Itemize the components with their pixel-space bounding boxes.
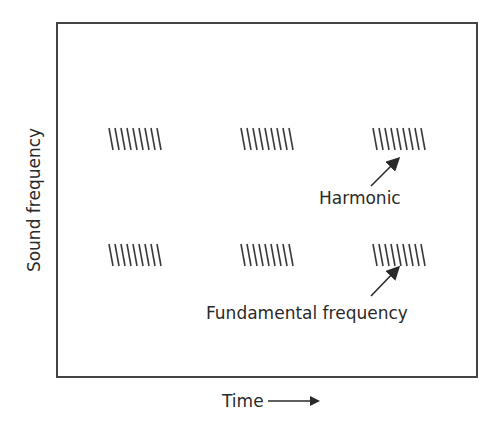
hatch-group-harmonic-1	[109, 128, 161, 150]
hatch-stroke	[247, 128, 251, 150]
hatch-stroke	[373, 128, 377, 150]
hatch-group-harmonic-3	[373, 128, 425, 150]
annotation-fundamental: Fundamental frequency	[206, 268, 408, 323]
hatch-group-fundamental-3	[373, 244, 425, 266]
hatch-stroke	[241, 244, 245, 266]
y-axis-label: Sound frequency	[24, 128, 44, 272]
hatch-stroke	[109, 128, 113, 150]
hatch-stroke	[133, 128, 137, 150]
hatch-stroke	[109, 244, 113, 266]
hatch-stroke	[271, 244, 275, 266]
x-axis-label-group: Time	[221, 391, 318, 411]
hatch-stroke	[415, 244, 419, 266]
hatch-stroke	[379, 244, 383, 266]
hatch-stroke	[253, 244, 257, 266]
hatch-stroke	[121, 244, 125, 266]
hatch-stroke	[385, 128, 389, 150]
hatch-stroke	[265, 244, 269, 266]
arrow-icon	[371, 159, 398, 186]
hatch-stroke	[409, 128, 413, 150]
hatch-stroke	[145, 128, 149, 150]
hatch-stroke	[241, 128, 245, 150]
hatch-stroke	[289, 244, 293, 266]
hatch-stroke	[421, 244, 425, 266]
hatch-stroke	[391, 244, 395, 266]
hatch-stroke	[265, 128, 269, 150]
hatch-stroke	[253, 128, 257, 150]
hatch-stroke	[127, 128, 131, 150]
hatch-stroke	[403, 128, 407, 150]
hatch-stroke	[289, 128, 293, 150]
hatch-stroke	[379, 128, 383, 150]
hatch-stroke	[259, 128, 263, 150]
hatch-stroke	[385, 244, 389, 266]
hatch-stroke	[115, 244, 119, 266]
hatch-stroke	[121, 128, 125, 150]
x-axis-label: Time	[221, 391, 264, 411]
hatch-stroke	[139, 244, 143, 266]
hatch-stroke	[403, 244, 407, 266]
hatch-stroke	[247, 244, 251, 266]
arrow-icon	[371, 268, 398, 296]
hatch-stroke	[151, 128, 155, 150]
hatch-stroke	[139, 128, 143, 150]
hatch-stroke	[283, 128, 287, 150]
annotation-label-fundamental: Fundamental frequency	[206, 303, 408, 323]
hatch-stroke	[421, 128, 425, 150]
hatch-stroke	[397, 244, 401, 266]
hatch-stroke	[157, 244, 161, 266]
hatch-stroke	[157, 128, 161, 150]
hatch-group-fundamental-2	[241, 244, 293, 266]
hatch-group-fundamental-1	[109, 244, 161, 266]
annotations: HarmonicFundamental frequency	[206, 159, 408, 323]
harmonics-diagram: Sound frequency Time HarmonicFundamental…	[0, 0, 503, 429]
hatch-stroke	[415, 128, 419, 150]
plot-frame	[57, 23, 477, 377]
hatch-stroke	[277, 244, 281, 266]
annotation-harmonic: Harmonic	[319, 159, 401, 208]
hatch-stroke	[133, 244, 137, 266]
hatch-stroke	[271, 128, 275, 150]
hatch-stroke	[373, 244, 377, 266]
hatch-stroke	[409, 244, 413, 266]
hatch-stroke	[277, 128, 281, 150]
hatch-stroke	[391, 128, 395, 150]
hatch-stroke	[127, 244, 131, 266]
hatch-stroke	[283, 244, 287, 266]
hatch-group-harmonic-2	[241, 128, 293, 150]
hatch-stroke	[115, 128, 119, 150]
hatch-stroke	[259, 244, 263, 266]
hatch-stroke	[145, 244, 149, 266]
hatch-stroke	[151, 244, 155, 266]
annotation-label-harmonic: Harmonic	[319, 188, 401, 208]
hatch-stroke	[397, 128, 401, 150]
